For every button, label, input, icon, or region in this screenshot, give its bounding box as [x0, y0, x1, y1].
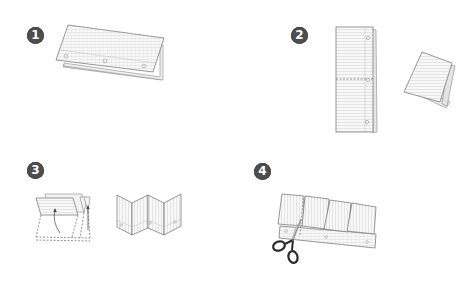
step-1-folded-paper	[56, 25, 164, 80]
step-2-small-folded-packet	[404, 52, 455, 108]
step-3-accordion-fold-in-progress	[36, 194, 90, 241]
step-2-tall-folded-paper	[336, 27, 377, 133]
folding-instructions-diagram: 1 2 3 4	[0, 0, 475, 285]
illustrations	[0, 0, 475, 285]
step-3-completed-accordion	[117, 194, 181, 235]
scissors-icon	[272, 219, 301, 264]
